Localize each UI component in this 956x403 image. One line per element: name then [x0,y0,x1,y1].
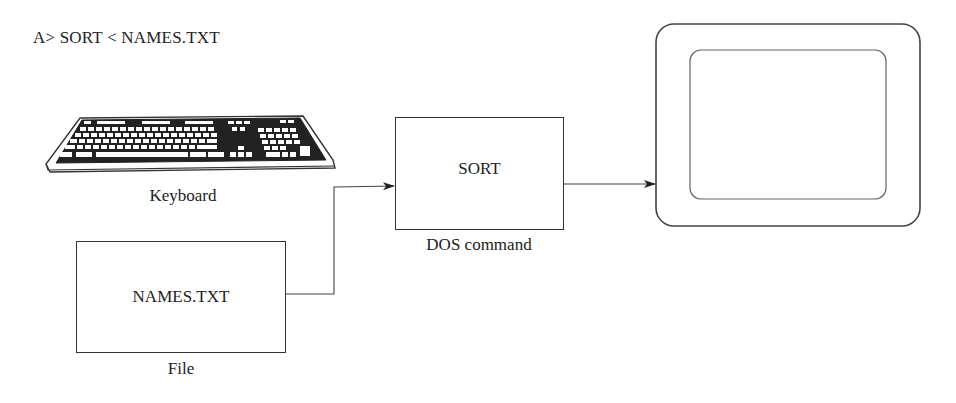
file-box-text: NAMES.TXT [133,287,230,307]
monitor-screen-icon [656,24,920,226]
keyboard-icon [46,116,335,172]
dos-command-label: DOS command [409,235,549,255]
sort-box-text: SORT [458,159,500,179]
keyboard-label: Keyboard [123,186,243,206]
file-box: NAMES.TXT [76,241,286,353]
file-label: File [141,359,221,379]
arrow-file-to-sort [286,186,394,294]
sort-command-box: SORT [395,117,564,230]
